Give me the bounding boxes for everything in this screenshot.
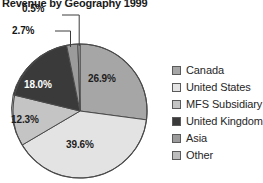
chart-legend: Canada United States MFS Subsidiary Unit… <box>172 62 263 164</box>
legend-item-united-states[interactable]: United States <box>172 79 263 96</box>
leader-lines <box>55 15 79 47</box>
legend-label: United Kingdom <box>186 116 263 127</box>
legend-item-canada[interactable]: Canada <box>172 62 263 79</box>
legend-label: Other <box>186 150 213 161</box>
legend-item-other[interactable]: Other <box>172 147 263 164</box>
pie-chart-figure: Revenue by Geography 1999 <box>0 0 263 183</box>
slice-label-asia: 2.7% <box>12 25 34 36</box>
legend-item-asia[interactable]: Asia <box>172 130 263 147</box>
legend-item-united-kingdom[interactable]: United Kingdom <box>172 113 263 130</box>
legend-swatch-icon <box>172 83 181 92</box>
slice-label-other: 0.5% <box>22 3 44 14</box>
legend-swatch-icon <box>172 134 181 143</box>
legend-label: Canada <box>186 65 224 76</box>
legend-label: United States <box>186 82 251 93</box>
slice-label-canada: 26.9% <box>88 73 116 84</box>
slice-label-united-states: 39.6% <box>66 139 94 150</box>
slice-label-united-kingdom: 18.0% <box>24 79 52 90</box>
legend-label: Asia <box>186 133 207 144</box>
legend-swatch-icon <box>172 100 181 109</box>
legend-item-mfs-subsidiary[interactable]: MFS Subsidiary <box>172 96 263 113</box>
pie-plot-area: 26.9% 39.6% 12.3% 18.0% 2.7% 0.5% <box>0 0 170 183</box>
legend-swatch-icon <box>172 117 181 126</box>
legend-swatch-icon <box>172 66 181 75</box>
slice-label-mfs-subsidiary: 12.3% <box>11 114 39 125</box>
legend-swatch-icon <box>172 151 181 160</box>
legend-label: MFS Subsidiary <box>186 99 262 110</box>
